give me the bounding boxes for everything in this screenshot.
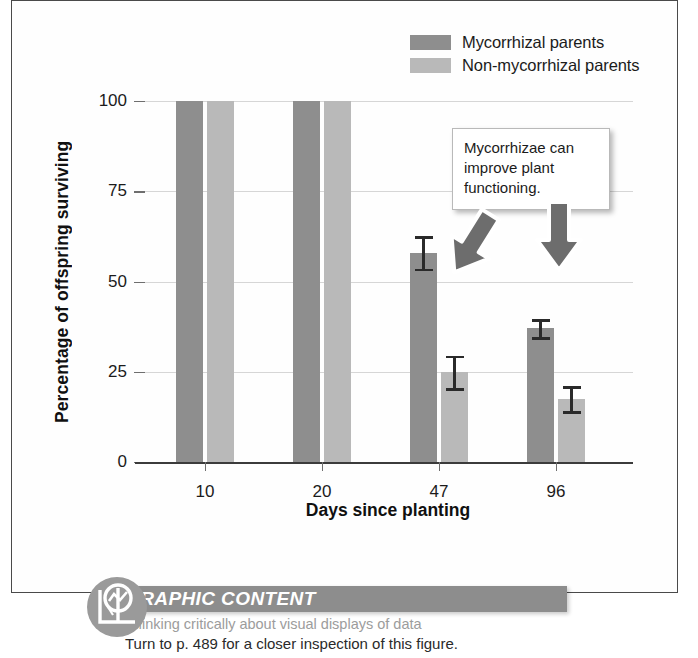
- callout-line-3: functioning.: [464, 178, 598, 198]
- y-tick-mark: [134, 372, 145, 373]
- chart-legend: Mycorrhizal parents Non-mycorrhizal pare…: [410, 31, 660, 77]
- error-bar-cap: [446, 388, 464, 391]
- error-bar: [453, 356, 456, 388]
- error-bar-cap: [446, 356, 464, 359]
- x-tick-label: 47: [430, 482, 449, 502]
- x-tick-label: 10: [196, 482, 215, 502]
- bar: [527, 328, 554, 462]
- y-tick-mark: [134, 282, 145, 283]
- bar: [410, 253, 437, 462]
- error-bar: [570, 386, 573, 411]
- x-tick-mark: [322, 462, 323, 471]
- x-axis-title: Days since planting: [143, 500, 633, 521]
- error-bar-cap: [563, 386, 581, 389]
- legend-item-non-mycorrhizal: Non-mycorrhizal parents: [410, 54, 660, 77]
- y-tick-mark: [134, 101, 145, 102]
- bar: [293, 101, 320, 462]
- legend-label-mycorrhizal: Mycorrhizal parents: [462, 33, 604, 52]
- y-tick-label: 0: [118, 452, 127, 472]
- legend-swatch-mycorrhizal: [410, 35, 451, 50]
- magnifier-chart-icon: [86, 576, 148, 638]
- y-tick-label: 25: [108, 362, 127, 382]
- error-bar-cap: [415, 269, 433, 272]
- legend-label-non-mycorrhizal: Non-mycorrhizal parents: [462, 56, 639, 75]
- y-axis-title: Percentage of offspring surviving: [52, 101, 73, 462]
- x-tick-label: 96: [547, 482, 566, 502]
- bar: [176, 101, 203, 462]
- y-tick-mark: [134, 191, 145, 192]
- y-tick-label: 75: [108, 181, 127, 201]
- x-tick-mark: [439, 462, 440, 471]
- error-bar-cap: [415, 236, 433, 239]
- legend-item-mycorrhizal: Mycorrhizal parents: [410, 31, 660, 54]
- x-tick-label: 20: [313, 482, 332, 502]
- bar: [207, 101, 234, 462]
- error-bar-cap: [532, 319, 550, 322]
- banner-subtitle: Thinking critically about visual display…: [125, 616, 422, 632]
- error-bar: [422, 236, 425, 268]
- legend-swatch-non-mycorrhizal: [410, 58, 451, 73]
- x-axis-line: [135, 462, 633, 464]
- error-bar: [539, 319, 542, 337]
- callout-annotation: Mycorrhizae can improve plant functionin…: [452, 128, 610, 210]
- bar: [324, 101, 351, 462]
- banner-reference: Turn to p. 489 for a closer inspection o…: [125, 635, 458, 652]
- y-tick-label: 50: [108, 272, 127, 292]
- banner-title: GRAPHIC CONTENT: [125, 588, 316, 610]
- error-bar-cap: [532, 337, 550, 340]
- graphic-content-banner: GRAPHIC CONTENT Thinking critically abou…: [115, 586, 567, 654]
- x-tick-mark: [205, 462, 206, 471]
- error-bar-cap: [563, 411, 581, 414]
- callout-line-2: improve plant: [464, 158, 598, 178]
- callout-line-1: Mycorrhizae can: [464, 138, 598, 158]
- y-tick-label: 100: [99, 91, 127, 111]
- x-tick-mark: [556, 462, 557, 471]
